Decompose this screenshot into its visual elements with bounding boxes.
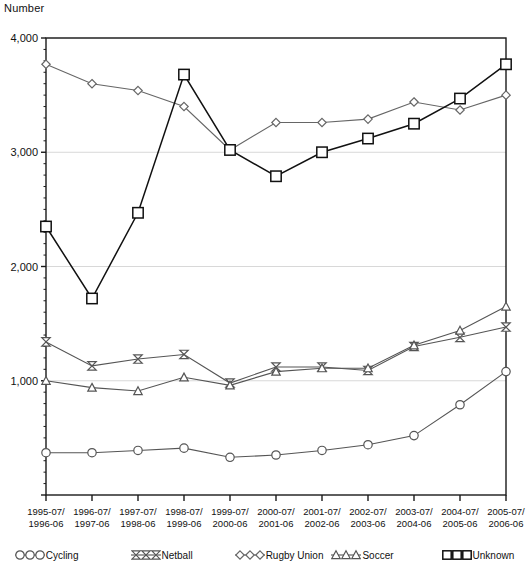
x-axis-ticks: [46, 495, 506, 501]
diamond-marker-icon: [235, 549, 265, 561]
svg-text:1,000: 1,000: [10, 375, 38, 387]
svg-text:2003-07/: 2003-07/: [395, 506, 433, 517]
y-axis-ticks: [41, 38, 46, 495]
svg-text:1998-06: 1998-06: [121, 518, 156, 529]
line-chart: Number 1,0002,0003,0004,000 1995-07/1996…: [0, 0, 529, 566]
legend-item-soccer[interactable]: Soccer: [331, 549, 393, 561]
legend-item-unknown[interactable]: Unknown: [442, 549, 515, 561]
svg-text:2005-07/: 2005-07/: [487, 506, 525, 517]
series-netball: [42, 323, 510, 387]
legend-label: Netball: [162, 550, 193, 561]
svg-text:2001-06: 2001-06: [259, 518, 294, 529]
svg-text:3,000: 3,000: [10, 146, 38, 158]
svg-text:1999-06: 1999-06: [167, 518, 202, 529]
svg-text:1997-06: 1997-06: [75, 518, 110, 529]
svg-text:2002-07/: 2002-07/: [349, 506, 387, 517]
svg-text:4,000: 4,000: [10, 32, 38, 44]
svg-text:1998-07/: 1998-07/: [165, 506, 203, 517]
legend-label: Soccer: [362, 550, 393, 561]
x-axis-labels: 1995-07/1996-061996-07/1997-061997-07/19…: [27, 506, 525, 529]
legend-item-netball[interactable]: Netball: [131, 549, 193, 561]
bowtie-marker-icon: [131, 549, 161, 561]
svg-text:1995-07/: 1995-07/: [27, 506, 65, 517]
series-layer: [41, 59, 511, 461]
circle-marker-icon: [15, 549, 45, 561]
svg-text:1996-06: 1996-06: [29, 518, 64, 529]
legend-item-rugby-union[interactable]: Rugby Union: [235, 549, 324, 561]
y-axis-labels: 1,0002,0003,0004,000: [10, 32, 38, 387]
svg-text:2001-07/: 2001-07/: [303, 506, 341, 517]
svg-text:2000-06: 2000-06: [213, 518, 248, 529]
legend-label: Unknown: [473, 550, 515, 561]
svg-text:2,000: 2,000: [10, 261, 38, 273]
svg-text:2004-06: 2004-06: [397, 518, 432, 529]
gridlines: [46, 38, 506, 381]
svg-text:2006-06: 2006-06: [489, 518, 524, 529]
svg-text:1999-07/: 1999-07/: [211, 506, 249, 517]
series-cycling: [42, 367, 510, 461]
legend-label: Rugby Union: [266, 550, 324, 561]
svg-text:2005-06: 2005-06: [443, 518, 478, 529]
svg-text:1996-07/: 1996-07/: [73, 506, 111, 517]
legend-label: Cycling: [46, 550, 79, 561]
svg-text:2003-06: 2003-06: [351, 518, 386, 529]
chart-legend: CyclingNetballRugby UnionSoccerUnknown: [0, 544, 529, 566]
plot-area: 1,0002,0003,0004,000 1995-07/1996-061996…: [0, 0, 529, 545]
square-marker-icon: [442, 549, 472, 561]
svg-text:2000-07/: 2000-07/: [257, 506, 295, 517]
triangle-marker-icon: [331, 549, 361, 561]
legend-item-cycling[interactable]: Cycling: [15, 549, 79, 561]
svg-text:2004-07/: 2004-07/: [441, 506, 479, 517]
svg-text:2002-06: 2002-06: [305, 518, 340, 529]
series-rugby-union: [42, 60, 510, 154]
svg-text:1997-07/: 1997-07/: [119, 506, 157, 517]
